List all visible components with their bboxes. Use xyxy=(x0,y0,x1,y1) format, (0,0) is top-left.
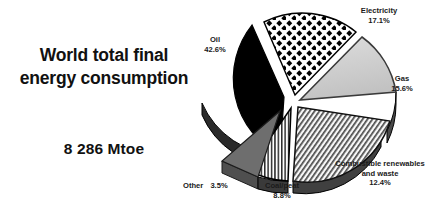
slice-label-other-name: Other xyxy=(183,181,203,190)
slice-label-coalpeat: Coal/peat 8.8% xyxy=(253,181,311,200)
slice-label-electricity-name: Electricity xyxy=(361,6,397,15)
slice-label-combustible-pct: 12.4% xyxy=(326,178,434,188)
slice-label-coalpeat-name: Coal/peat xyxy=(265,181,299,190)
slice-label-oil-name: Oil xyxy=(210,35,220,44)
chart-page: World total final energy consumption 8 2… xyxy=(0,0,436,211)
slice-label-other: Other 3.5% xyxy=(183,181,245,191)
pie-slices xyxy=(222,13,396,182)
total-value: 8 286 Mtoe xyxy=(0,140,208,158)
title-line-1: World total final xyxy=(40,45,169,65)
slice-label-combustible-name2: and waste xyxy=(326,169,434,179)
slice-label-electricity: Electricity 17.1% xyxy=(333,6,425,25)
slice-label-gas-name: Gas xyxy=(395,74,409,83)
slice-label-coalpeat-pct: 8.8% xyxy=(253,191,311,201)
slice-label-combustible-name: Combustible renewables xyxy=(335,159,424,168)
slice-label-gas: Gas 15.6% xyxy=(376,74,428,93)
title-panel: World total final energy consumption 8 2… xyxy=(0,0,212,211)
slice-label-other-pct: 3.5% xyxy=(210,181,227,190)
slice-label-electricity-pct: 17.1% xyxy=(333,16,425,26)
title-line-2: energy consumption xyxy=(0,67,208,90)
slice-label-combustible: Combustible renewables and waste 12.4% xyxy=(326,159,434,188)
slice-label-oil: Oil 42.6% xyxy=(193,35,237,54)
slice-depth-gas xyxy=(387,92,396,143)
slice-label-gas-pct: 15.6% xyxy=(376,84,428,94)
slice-label-oil-pct: 42.6% xyxy=(193,45,237,55)
page-title: World total final energy consumption xyxy=(0,44,208,90)
